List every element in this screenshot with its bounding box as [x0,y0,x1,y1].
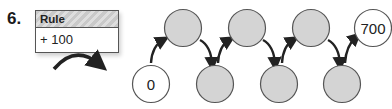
arrow-down-icon [263,40,275,64]
end-value: 700 [360,20,385,37]
answer-circle-blank[interactable] [324,66,361,103]
rule-arrow-icon [54,55,99,69]
answer-circle-blank[interactable] [165,10,202,47]
answer-circle-blank[interactable] [197,66,234,103]
arrow-down-icon [328,40,340,64]
arrow-up-icon [282,40,293,63]
answer-circle-blank[interactable] [229,10,266,47]
arrow-up-icon [151,40,163,63]
number-chain-diagram: 700 0 [0,0,392,109]
arrow-up-icon [218,40,229,63]
answer-circle-blank[interactable] [261,66,298,103]
arrow-up-icon [345,37,356,63]
answer-circle-blank[interactable] [293,10,330,47]
arrow-down-icon [200,40,212,64]
start-value: 0 [147,76,155,93]
